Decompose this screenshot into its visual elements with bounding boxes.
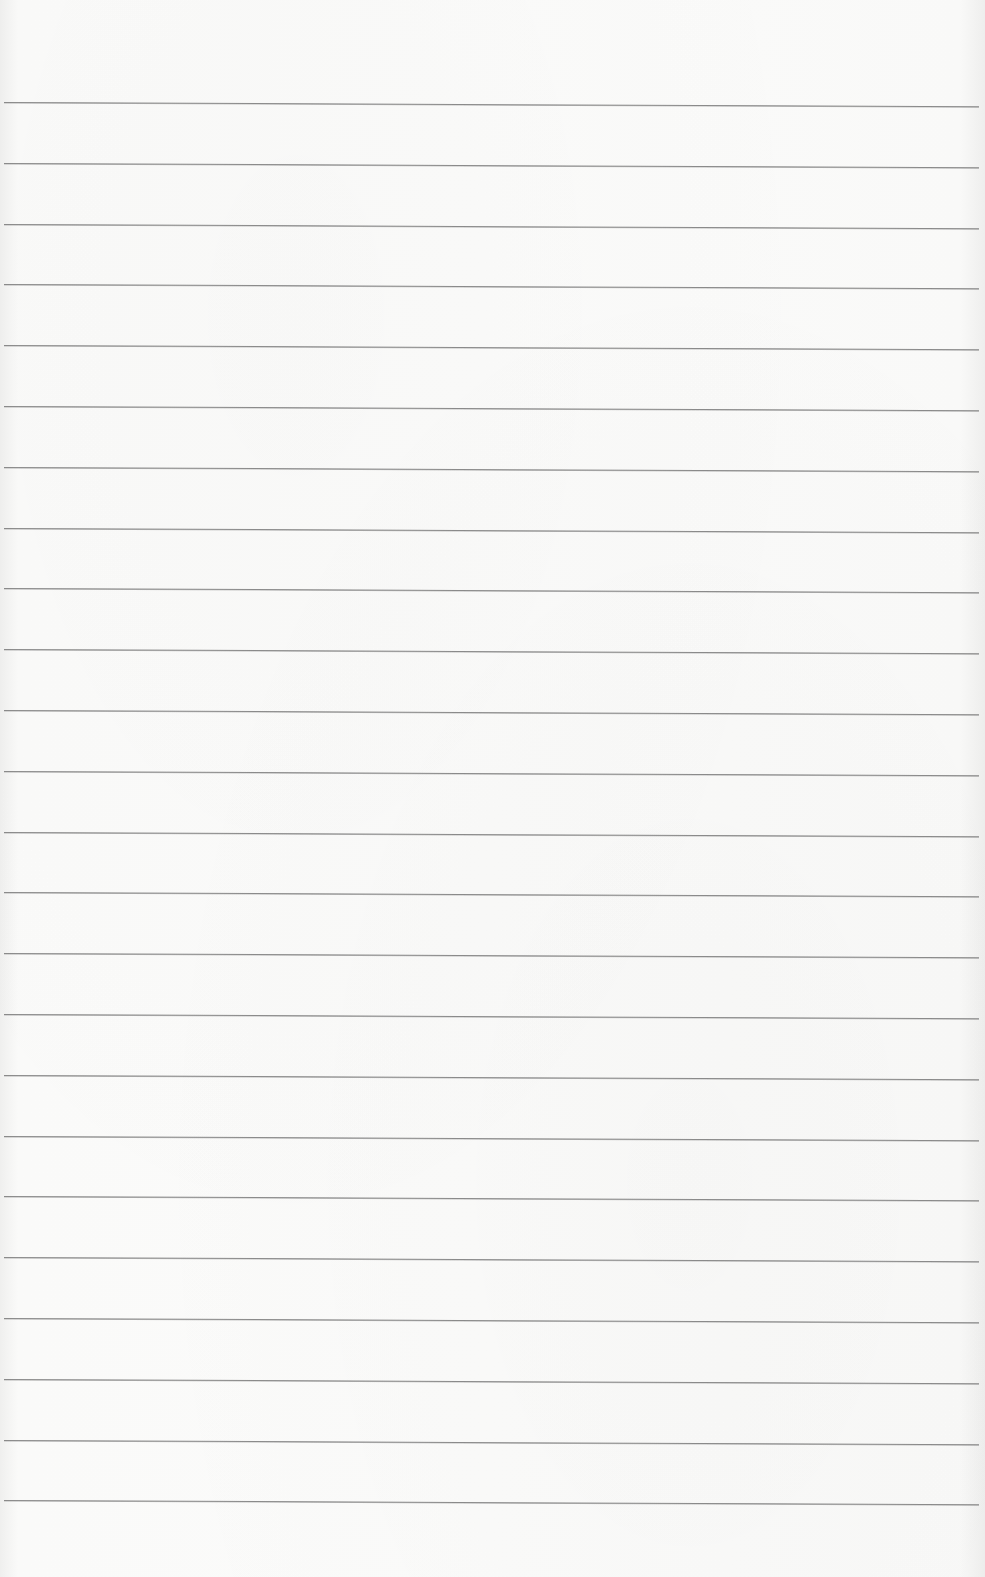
ruled-line: [4, 892, 979, 897]
ruled-line: [4, 102, 979, 107]
ruled-line: [4, 1500, 979, 1505]
ruled-line: [4, 710, 979, 715]
ruled-line: [4, 406, 979, 411]
ruled-line: [4, 1318, 979, 1323]
ruled-line: [4, 771, 979, 776]
ruled-line: [4, 163, 979, 168]
ruled-line: [4, 1136, 979, 1141]
ruled-line: [4, 1075, 979, 1080]
ruled-line: [4, 345, 979, 350]
ruled-line: [4, 1379, 979, 1384]
ruled-line: [4, 284, 979, 289]
ruled-line: [4, 1257, 979, 1262]
ruled-line: [4, 649, 979, 654]
ruled-line: [4, 467, 979, 472]
ruled-line: [4, 953, 979, 958]
ruled-line: [4, 1440, 979, 1445]
ruled-line: [4, 832, 979, 837]
ruled-line: [4, 588, 979, 593]
ruled-line: [4, 224, 979, 229]
ruled-line: [4, 528, 979, 533]
ruled-line: [4, 1014, 979, 1019]
ruled-line: [4, 1196, 979, 1201]
lined-paper-sheet: [0, 0, 985, 1577]
